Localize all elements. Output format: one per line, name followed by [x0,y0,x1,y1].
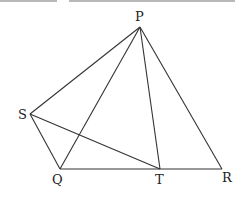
segment-PS [30,27,140,114]
label-S: S [18,107,27,122]
segment-PR [140,27,222,169]
segment-PQ [60,27,140,169]
label-Q: Q [52,172,63,187]
segment-SQ [30,114,60,169]
label-R: R [222,170,233,185]
segment-PT [140,27,160,169]
segment-ST [30,114,160,169]
geometry-diagram: P S Q T R [0,0,242,200]
segments [30,27,222,169]
label-T: T [155,172,164,187]
label-P: P [135,9,144,24]
